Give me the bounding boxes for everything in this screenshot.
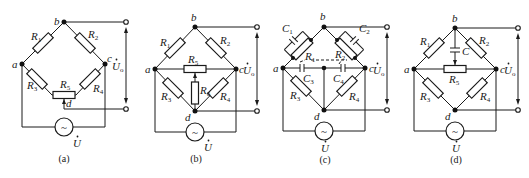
label-node-a: a: [145, 63, 151, 75]
label-r5: R5: [59, 78, 71, 92]
label-source-u: U: [452, 142, 461, 154]
label-node-a: a: [273, 62, 279, 74]
ac-symbol: ~: [452, 125, 458, 137]
wiper-arrow-icon: [453, 60, 457, 65]
label-node-b: b: [54, 15, 60, 27]
output-arrow-down-icon: [124, 98, 128, 104]
output-arrow-down-icon: [385, 99, 389, 105]
phasor-dot-icon: [456, 141, 458, 143]
label-c1: C1: [282, 22, 293, 36]
node-a: [153, 67, 158, 72]
label-r3: R3: [160, 90, 172, 104]
label-r4: R4: [92, 82, 104, 96]
junction-dot: [309, 38, 313, 42]
node-d: [453, 108, 458, 113]
output-arrow-up-icon: [516, 33, 520, 39]
panel-a: ~ b a c d R1 R2 R3 R4 R5 U Uo (a): [12, 15, 128, 165]
junction-dot: [291, 56, 295, 60]
label-node-d: d: [66, 97, 72, 109]
panel-b: ~ b a c d R1 R2 R3 R4 R5 R6 U Uo (b): [145, 11, 259, 165]
label-output-uo: Uo: [504, 64, 516, 78]
output-terminal-bottom: [385, 108, 390, 113]
output-arrow-down-icon: [255, 100, 259, 106]
label-node-d: d: [445, 110, 451, 122]
label-r5: R5: [187, 53, 199, 67]
output-arrow-down-icon: [516, 99, 520, 105]
phasor-dot-icon: [508, 63, 510, 65]
label-r4: R4: [219, 90, 231, 104]
node-b: [322, 25, 327, 30]
label-r2: R2: [478, 34, 490, 48]
label-r1: R1: [419, 35, 431, 49]
label-node-a: a: [404, 63, 410, 75]
output-terminal-top: [516, 26, 521, 31]
output-terminal-top: [255, 25, 260, 30]
output-arrow-up-icon: [255, 32, 259, 38]
output-arrow-up-icon: [385, 32, 389, 38]
phasor-dot-icon: [77, 136, 79, 138]
label-node-d: d: [185, 111, 191, 123]
label-output-uo: Uo: [243, 64, 255, 78]
label-r1: R1: [30, 30, 42, 44]
phasor-dot-icon: [377, 63, 379, 65]
ac-symbol: ~: [192, 126, 198, 138]
ac-symbol: ~: [61, 121, 67, 133]
label-r3: R3: [289, 89, 301, 103]
label-node-a: a: [12, 58, 18, 70]
label-node-b: b: [320, 10, 326, 22]
node-b: [193, 25, 198, 30]
caption-a: (a): [58, 153, 69, 165]
label-r3: R3: [419, 90, 431, 104]
label-r2: R2: [219, 34, 231, 48]
resistor-r6: [192, 82, 199, 104]
bridge-circuits-figure: ~ b a c d R1 R2 R3 R4 R5 U Uo (a): [0, 0, 529, 178]
label-r4: R4: [479, 90, 491, 104]
node-c: [234, 67, 239, 72]
junction-dot: [322, 66, 327, 71]
label-c2: C2: [359, 22, 370, 36]
node-b: [453, 26, 458, 31]
caption-b: (b): [190, 153, 202, 165]
junction-dot: [335, 38, 339, 42]
junction-dot: [353, 56, 357, 60]
output-terminal-bottom: [255, 109, 260, 114]
node-b: [62, 20, 67, 25]
node-a: [412, 67, 417, 72]
node-a: [20, 62, 25, 67]
label-output-uo: Uo: [373, 64, 385, 78]
label-r5: R5: [448, 73, 460, 87]
label-c4: C4: [333, 72, 344, 86]
phasor-dot-icon: [208, 140, 210, 142]
wiper-arrow-icon: [193, 73, 197, 78]
phasor-dot-icon: [247, 63, 249, 65]
label-output-uo: Uo: [112, 60, 124, 74]
label-r2: R2: [87, 28, 99, 42]
label-r6: R6: [199, 84, 211, 98]
label-r4: R4: [348, 90, 360, 104]
label-node-b: b: [191, 11, 197, 23]
output-terminal-top: [124, 20, 129, 25]
output-terminal-bottom: [516, 108, 521, 113]
potentiometer-r5: [444, 66, 466, 73]
label-r1: R1: [304, 50, 316, 64]
phasor-dot-icon: [116, 59, 118, 61]
output-arrow-up-icon: [124, 27, 128, 33]
node-c: [494, 67, 499, 72]
label-c: C: [462, 45, 470, 57]
caption-c: (c): [319, 154, 330, 166]
panel-c: ~ b a c d C1 C2 R1 R2 C3 C4 R3 R4 U Uo (…: [273, 10, 389, 166]
panel-d: ~ b a c d R1 R2 C R5 R3 R4 U Uo (d): [404, 12, 520, 166]
potentiometer-r5: [53, 92, 75, 99]
output-terminal-top: [385, 25, 390, 30]
node-a: [281, 66, 286, 71]
label-r1: R1: [159, 36, 171, 50]
label-source-u: U: [204, 141, 213, 153]
label-source-u: U: [73, 137, 82, 149]
phasor-dot-icon: [325, 141, 327, 143]
output-terminal-bottom: [124, 107, 129, 112]
label-node-b: b: [452, 12, 458, 24]
caption-d: (d): [450, 154, 462, 166]
node-c: [363, 66, 368, 71]
node-d: [322, 108, 327, 113]
node-d: [193, 109, 198, 114]
